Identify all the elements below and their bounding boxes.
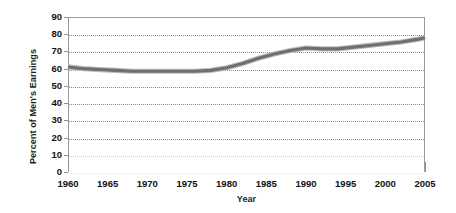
data-series-layer	[68, 17, 425, 172]
x-tick-label: 1980	[207, 178, 247, 190]
y-tick-label: 70	[34, 45, 62, 57]
y-tick-label: 90	[34, 11, 62, 23]
x-tick-label: 1960	[48, 178, 88, 190]
x-tick-label: 1995	[326, 178, 366, 190]
y-tick-label: 10	[34, 149, 62, 161]
x-tick-label: 1975	[167, 178, 207, 190]
y-tick-label: 20	[34, 132, 62, 144]
y-tick-label: 50	[34, 80, 62, 92]
x-tick-label: 2000	[365, 178, 405, 190]
gridline	[69, 173, 424, 174]
y-tick-label: 60	[34, 63, 62, 75]
y-tick-label: 40	[34, 97, 62, 109]
series-line-halo	[68, 38, 425, 72]
x-tick-label: 1985	[246, 178, 286, 190]
x-tick-label: 1970	[127, 178, 167, 190]
y-tick-label: 80	[34, 28, 62, 40]
y-tick-label: 30	[34, 114, 62, 126]
x-tick-label: 2005	[405, 178, 445, 190]
x-tick-label: 1990	[286, 178, 326, 190]
line-chart: Percent of Men's Earnings 90807060504030…	[0, 0, 456, 213]
x-axis-title: Year	[68, 194, 425, 204]
x-tick-label: 1965	[88, 178, 128, 190]
x-tick-mark	[425, 162, 426, 172]
y-tick-label: 0	[34, 166, 62, 178]
y-tick-mark	[64, 172, 68, 173]
